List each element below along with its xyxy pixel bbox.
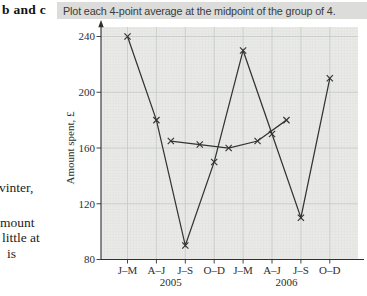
x-tick-label: A–J <box>148 264 166 276</box>
moving-average-chart: 80120160200240J–MA–JJ–SO–DJ–MA–JJ–SO–D20… <box>0 0 367 296</box>
y-axis-title: Amount spent, £ <box>64 111 76 185</box>
y-tick-label: 120 <box>79 198 96 210</box>
year-label: 2006 <box>275 276 298 288</box>
y-tick-label: 160 <box>79 142 96 154</box>
year-label: 2005 <box>160 276 183 288</box>
x-tick-label: J–S <box>293 264 309 276</box>
x-tick-label: J–M <box>233 264 253 276</box>
y-tick-label: 80 <box>84 253 96 265</box>
x-tick-label: J–M <box>118 264 138 276</box>
plot-area <box>101 27 358 260</box>
x-tick-label: O–D <box>204 264 225 276</box>
textbook-page-clip: b and c Plot each 4-point average at the… <box>0 0 367 296</box>
y-tick-label: 200 <box>79 86 96 98</box>
chart-svg: 80120160200240J–MA–JJ–SO–DJ–MA–JJ–SO–D20… <box>0 0 367 296</box>
x-tick-label: O–D <box>319 264 340 276</box>
x-tick-label: J–S <box>177 264 193 276</box>
x-tick-label: A–J <box>263 264 281 276</box>
y-tick-label: 240 <box>79 30 96 42</box>
y-axis-arrow-icon <box>98 20 103 27</box>
